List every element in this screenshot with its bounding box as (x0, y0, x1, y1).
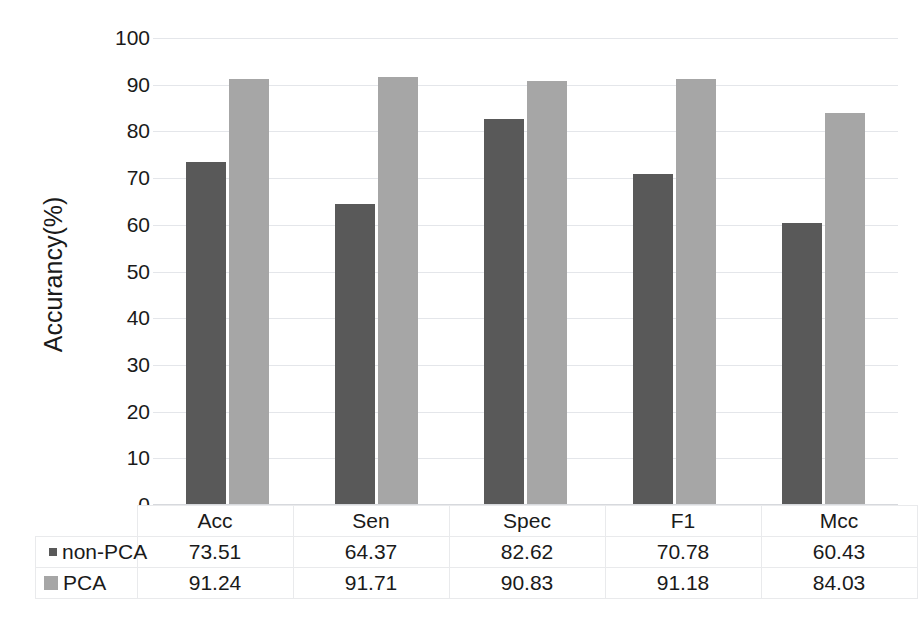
legend-swatch-icon (44, 576, 58, 590)
y-axis-tick-label: 40 (10, 306, 150, 330)
bar-group-f1 (633, 38, 716, 505)
table-cell-acc: 73.51 (137, 537, 293, 568)
table-cell-mcc: 60.43 (761, 537, 917, 568)
bar-pca-sen (378, 77, 418, 505)
y-axis-tick-label: 30 (10, 353, 150, 377)
table-cell-spec: 82.62 (449, 537, 605, 568)
legend-label: PCA (63, 571, 106, 595)
y-axis-tick-label: 10 (10, 446, 150, 470)
table-cell-f1: 70.78 (605, 537, 761, 568)
y-axis-tick-label: 50 (10, 260, 150, 284)
table-column-header-mcc: Mcc (761, 506, 917, 537)
chart-screenshot: Accurancy(%) 1009080706050403020100 AccS… (0, 0, 923, 642)
y-axis-tick-label: 80 (10, 119, 150, 143)
bar-pca-mcc (825, 113, 865, 505)
legend-item-non-pca: non-PCA (36, 537, 138, 568)
bar-pca-f1 (676, 79, 716, 505)
table-cell-acc: 91.24 (137, 568, 293, 599)
data-table: AccSenSpecF1Mccnon-PCA73.5164.3782.6270.… (35, 505, 918, 599)
y-axis-tick-label: 20 (10, 400, 150, 424)
bar-group-mcc (782, 38, 865, 505)
table-header-row: AccSenSpecF1Mcc (36, 506, 918, 537)
bar-non-pca-sen (335, 204, 375, 505)
bar-group-acc (186, 38, 269, 505)
bar-group-spec (484, 38, 567, 505)
y-axis-tick-label: 100 (10, 26, 150, 50)
plot-area (153, 38, 898, 505)
table-column-header-f1: F1 (605, 506, 761, 537)
bar-non-pca-spec (484, 119, 524, 505)
legend-swatch-icon (49, 548, 57, 556)
y-axis-tick-label: 70 (10, 166, 150, 190)
table-row: PCA91.2491.7190.8391.1884.03 (36, 568, 918, 599)
table-cell-f1: 91.18 (605, 568, 761, 599)
table-cell-mcc: 84.03 (761, 568, 917, 599)
bar-pca-spec (527, 81, 567, 505)
bar-pca-acc (229, 79, 269, 505)
y-axis-tick-label: 60 (10, 213, 150, 237)
bar-non-pca-mcc (782, 223, 822, 505)
bar-non-pca-f1 (633, 174, 673, 505)
table-column-header-spec: Spec (449, 506, 605, 537)
y-axis-tick-label: 90 (10, 73, 150, 97)
table-corner-cell (36, 506, 138, 537)
bar-non-pca-acc (186, 162, 226, 505)
legend-label: non-PCA (62, 540, 147, 564)
table-cell-sen: 91.71 (293, 568, 449, 599)
table-cell-sen: 64.37 (293, 537, 449, 568)
table-row: non-PCA73.5164.3782.6270.7860.43 (36, 537, 918, 568)
bar-group-sen (335, 38, 418, 505)
table-column-header-sen: Sen (293, 506, 449, 537)
table-column-header-acc: Acc (137, 506, 293, 537)
table-cell-spec: 90.83 (449, 568, 605, 599)
legend-item-pca: PCA (36, 568, 138, 599)
